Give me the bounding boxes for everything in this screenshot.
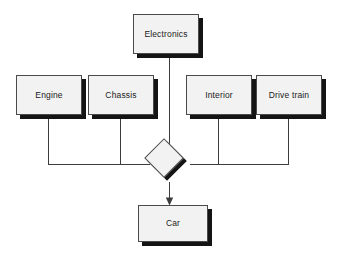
node-chassis[interactable]: Chassis [88,75,154,115]
node-drive-train[interactable]: Drive train [256,75,322,115]
edge-drivetrain-junction [190,115,289,165]
node-interior-label: Interior [205,91,233,100]
diagram-canvas: Electronics Engine Chassis Interior Driv… [0,0,337,264]
node-electronics-label: Electronics [144,30,187,39]
node-engine[interactable]: Engine [16,75,82,115]
node-junction-diamond[interactable] [150,144,190,184]
node-engine-label: Engine [35,91,62,100]
node-car-label: Car [166,219,180,228]
edge-engine-junction [49,115,151,165]
diamond-face [144,138,184,178]
node-car[interactable]: Car [138,205,208,242]
edge-interior-junction [190,115,219,165]
node-chassis-label: Chassis [105,91,136,100]
node-electronics[interactable]: Electronics [133,14,199,54]
node-drive-train-label: Drive train [269,91,309,100]
node-interior[interactable]: Interior [186,75,252,115]
